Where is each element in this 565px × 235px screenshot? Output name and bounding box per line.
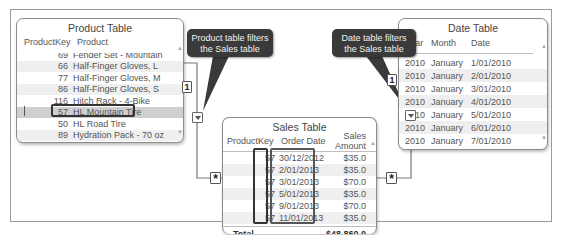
date-table-title: Date Table [399,19,547,35]
scroll-up-icon[interactable]: ▲ [370,140,373,146]
table-row[interactable]: 50HL Road Tire [17,118,183,130]
many-cardinality-badge-product: * [210,172,221,184]
table-row[interactable]: 77Half-Finger Gloves, M [17,72,183,84]
product-table-header: ProductKey Product [17,35,183,49]
product-table: Product Table ProductKey Product 69Fende… [16,18,184,143]
one-cardinality-badge-date: 1 [387,74,397,86]
total-row: Total $48,860.0 [223,226,376,234]
product-table-title: Product Table [17,19,183,35]
table-row[interactable]: 66Half-Finger Gloves, L [17,61,183,73]
table-row[interactable]: 2010January4/01/2010 [399,95,547,108]
text-cursor [24,106,25,116]
table-row[interactable]: 2010January3/01/2010 [399,82,547,95]
product-table-body: 69Fender Set - Mountain 66Half-Finger Gl… [17,53,183,141]
column-header-order-date[interactable]: Order Date [277,136,331,146]
one-cardinality-badge-product: 1 [182,81,192,93]
table-row[interactable]: 69Fender Set - Mountain [17,53,183,61]
scroll-up-icon[interactable]: ▲ [177,45,180,51]
scroll-up-icon[interactable]: ▲ [541,43,544,49]
date-filter-callout: Date table filters the Sales table [332,29,416,57]
table-row[interactable]: 2010January7/01/2010 [399,134,547,147]
table-row[interactable]: 86Half-Finger Gloves, S [17,84,183,96]
order-date-column-highlight [270,148,315,224]
table-row[interactable]: 2010January1/01/2010 [399,56,547,69]
table-row[interactable]: 89Hydration Pack - 70 oz [17,130,183,142]
column-header-productkey[interactable]: ProductKey [223,136,277,146]
filter-direction-arrow-icon [405,110,416,121]
table-row[interactable]: 2010January5/01/2010 [399,108,547,121]
product-filter-callout: Product table filters the Sales table [187,29,273,57]
table-row[interactable]: 2010January2/01/2010 [399,69,547,82]
date-table-header: Year Month Date [399,35,547,51]
productkey-column-highlight [253,148,268,224]
date-table: Date Table Year Month Date 2010January1/… [398,18,548,150]
scroll-down-icon[interactable]: ▼ [541,135,544,141]
selected-row-highlight [51,104,135,117]
column-header-date[interactable]: Date [471,38,547,48]
column-header-month[interactable]: Month [429,38,471,48]
many-cardinality-badge-date: * [386,172,397,184]
table-row[interactable]: 2010January6/01/2010 [399,121,547,134]
sales-table-header: ProductKey Order Date Sales Amount [223,134,376,148]
filter-direction-arrow-icon [192,112,203,123]
total-value: $48,860.0 [326,229,376,235]
column-header-product[interactable]: Product [77,37,183,47]
scroll-down-icon[interactable]: ▼ [177,129,180,135]
column-header-productkey[interactable]: ProductKey [17,37,77,47]
total-label: Total [223,229,275,235]
